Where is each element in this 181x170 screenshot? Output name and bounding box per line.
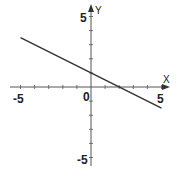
- coordinate-plane: X Y -5 5 0 5 -5: [0, 0, 181, 170]
- x-axis-label: X: [163, 74, 170, 85]
- origin-label: 0: [83, 90, 90, 104]
- y-axis-label: Y: [95, 5, 102, 16]
- y-tick-label-5: 5: [80, 11, 87, 25]
- x-tick-label-5: 5: [157, 92, 164, 106]
- x-tick-label-neg5: -5: [13, 92, 24, 106]
- y-axis-arrow-icon: [88, 4, 94, 12]
- y-tick-label-neg5: -5: [77, 153, 88, 167]
